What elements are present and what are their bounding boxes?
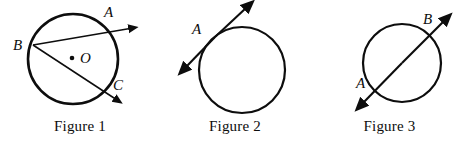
geometry-figure-panel: O A B C Figure 1 A Figure 2 — [0, 0, 469, 147]
point-label-o: O — [80, 50, 91, 66]
figure-2-drawing: A — [160, 0, 310, 120]
center-point-dot — [70, 56, 75, 61]
figure-2-caption: Figure 2 — [160, 118, 310, 135]
figure-1: O A B C Figure 1 — [0, 0, 160, 147]
tangent-line — [215, 8, 246, 37]
figure-1-drawing: O A B C — [0, 0, 160, 120]
figure-1-caption: Figure 1 — [0, 118, 160, 135]
secant-line — [402, 21, 444, 63]
ray-b-to-c — [33, 45, 116, 99]
point-label-b: B — [13, 37, 22, 53]
point-label-a: A — [355, 75, 366, 91]
figure-3-drawing: A B — [310, 0, 469, 120]
figure-3-caption: Figure 3 — [310, 118, 469, 135]
point-label-b: B — [423, 11, 432, 27]
point-label-c: C — [113, 77, 124, 93]
point-label-a: A — [103, 4, 114, 20]
figure-3: A B Figure 3 — [310, 0, 469, 147]
point-label-a: A — [191, 21, 202, 37]
figure-2: A Figure 2 — [160, 0, 310, 147]
